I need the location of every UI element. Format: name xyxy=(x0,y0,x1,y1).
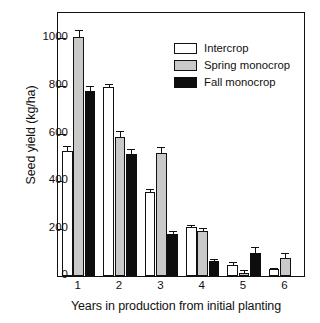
errorbar-cap-year3-intercrop xyxy=(146,189,154,190)
bar-year5-intercrop xyxy=(227,265,238,276)
errorbar-cap-year6-intercrop xyxy=(270,268,278,269)
y-tick-label-1000: 1000 xyxy=(22,31,68,43)
x-tick-label-6: 6 xyxy=(272,280,296,292)
x-tick-label-4: 4 xyxy=(190,280,214,292)
bar-year2-spring xyxy=(115,137,126,277)
y-tick-label-0: 0 xyxy=(22,269,68,281)
errorbar-cap-year1-fall xyxy=(86,86,94,87)
legend-item-fall: Fall monocrop xyxy=(174,75,290,90)
bar-year3-fall xyxy=(167,234,178,276)
bar-year3-intercrop xyxy=(145,192,156,276)
bar-year1-fall xyxy=(85,91,96,277)
errorbar-cap-year5-intercrop xyxy=(229,262,237,263)
bar-year4-spring xyxy=(197,231,208,277)
legend-swatch-intercrop xyxy=(174,43,197,54)
legend-swatch-fall xyxy=(174,77,197,88)
y-tick-label-800: 800 xyxy=(22,79,68,91)
errorbar-cap-year4-spring xyxy=(199,228,207,229)
bar-year1-intercrop xyxy=(62,151,73,277)
plot-area: IntercropSpring monocropFall monocrop xyxy=(57,12,305,277)
x-tick-label-5: 5 xyxy=(231,280,255,292)
y-tick-label-200: 200 xyxy=(22,222,68,234)
errorbar-cap-year1-spring xyxy=(75,30,83,31)
errorbar-cap-year2-intercrop xyxy=(105,84,113,85)
errorbar-year1-spring xyxy=(79,30,80,37)
errorbar-cap-year2-fall xyxy=(127,149,135,150)
bar-year2-fall xyxy=(126,154,137,277)
errorbar-cap-year1-intercrop xyxy=(63,146,71,147)
errorbar-cap-year6-spring xyxy=(281,253,289,254)
x-tick-label-2: 2 xyxy=(107,280,131,292)
legend-swatch-spring xyxy=(174,60,197,71)
errorbar-cap-year3-fall xyxy=(169,231,177,232)
chart-legend: IntercropSpring monocropFall monocrop xyxy=(174,41,290,92)
bar-year6-spring xyxy=(280,258,291,277)
legend-label-intercrop: Intercrop xyxy=(204,43,249,54)
bar-year3-spring xyxy=(156,153,167,276)
legend-label-fall: Fall monocrop xyxy=(204,77,276,88)
bar-year5-spring xyxy=(239,273,250,277)
bar-year6-intercrop xyxy=(269,269,280,276)
seed-yield-bar-chart: Seed yield (kg/ha) Years in production f… xyxy=(0,0,320,323)
bar-year4-intercrop xyxy=(186,227,197,276)
errorbar-cap-year4-fall xyxy=(210,259,218,260)
bar-year5-fall xyxy=(250,253,261,277)
legend-item-spring: Spring monocrop xyxy=(174,58,290,73)
errorbar-cap-year5-fall xyxy=(251,247,259,248)
x-axis-label: Years in production from initial plantin… xyxy=(40,299,312,313)
bar-year2-intercrop xyxy=(103,87,114,276)
bar-year4-fall xyxy=(209,261,220,276)
y-tick-label-400: 400 xyxy=(22,174,68,186)
legend-item-intercrop: Intercrop xyxy=(174,41,290,56)
x-tick-label-1: 1 xyxy=(66,280,90,292)
x-tick-label-3: 3 xyxy=(148,280,172,292)
y-tick-label-600: 600 xyxy=(22,127,68,139)
bar-year1-spring xyxy=(73,37,84,276)
errorbar-cap-year2-spring xyxy=(116,131,124,132)
errorbar-cap-year4-intercrop xyxy=(187,225,195,226)
errorbar-cap-year5-spring xyxy=(240,270,248,271)
legend-label-spring: Spring monocrop xyxy=(204,60,290,71)
errorbar-cap-year3-spring xyxy=(157,147,165,148)
